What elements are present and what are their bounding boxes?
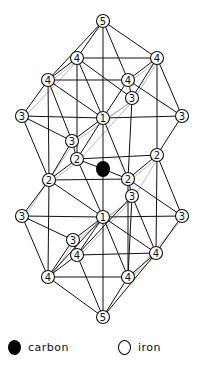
bond-line (103, 116, 182, 118)
iron-atom-node: 3 (126, 190, 139, 203)
iron-atom-node: 3 (67, 234, 80, 247)
bond-line (128, 98, 132, 179)
iron-atom-label: 4 (74, 250, 80, 261)
iron-atom-node: 4 (122, 271, 135, 284)
bond-line (48, 80, 72, 141)
iron-atom-label: 2 (154, 150, 160, 161)
bond-line (22, 216, 73, 240)
iron-atom-label: 3 (129, 191, 135, 202)
carbon-atom (96, 161, 110, 177)
iron-atom-label: 3 (69, 136, 75, 147)
iron-atom-node: 2 (71, 153, 84, 166)
iron-atom-label: 1 (100, 113, 106, 124)
iron-atom-label: 4 (125, 75, 131, 86)
iron-atom-label: 4 (154, 53, 160, 64)
iron-atom-label: 3 (19, 111, 25, 122)
iron-atom-label: 4 (45, 75, 51, 86)
faint-bond-line (134, 156, 159, 197)
bond-line (103, 253, 156, 317)
bond-line (22, 216, 103, 217)
bond-line (22, 116, 49, 180)
iron-atom-label: 4 (125, 272, 131, 283)
carbon-swatch-icon (8, 340, 21, 355)
iron-atom-node: 2 (122, 173, 135, 186)
iron-atom-label: 2 (46, 175, 52, 186)
iron-atom-node: 4 (71, 249, 84, 262)
iron-atom-label: 4 (74, 53, 80, 64)
iron-atom-node: 4 (151, 52, 164, 65)
iron-atom-node: 4 (71, 52, 84, 65)
iron-atom-node: 5 (97, 311, 110, 324)
iron-atom-node: 3 (16, 210, 29, 223)
iron-atom-node: 3 (66, 135, 79, 148)
iron-atom-label: 3 (19, 211, 25, 222)
legend-iron-label: iron (138, 341, 161, 354)
iron-atom-label: 1 (100, 212, 106, 223)
legend-iron: iron (118, 340, 161, 355)
bond-line (22, 116, 72, 141)
bond-line (77, 253, 156, 255)
legend-carbon: carbon (8, 340, 69, 355)
iron-atom-node: 3 (176, 110, 189, 123)
iron-atom-node: 3 (176, 210, 189, 223)
bond-line (22, 216, 48, 277)
iron-atom-node: 5 (97, 15, 110, 28)
iron-atom-node: 1 (97, 112, 110, 125)
bond-line (103, 216, 182, 217)
iron-atom-label: 3 (179, 211, 185, 222)
legend-carbon-label: carbon (28, 341, 69, 354)
iron-atom-node: 4 (42, 74, 55, 87)
iron-swatch-icon (118, 340, 131, 355)
bond-line (77, 155, 157, 159)
iron-atom-node: 3 (16, 110, 29, 123)
iron-atom-label: 3 (179, 111, 185, 122)
carbon-atom-dot (96, 161, 110, 177)
bond-line (156, 155, 157, 253)
iron-atom-label: 5 (100, 16, 106, 27)
bond-line (49, 179, 128, 180)
iron-atom-node: 1 (97, 211, 110, 224)
bond-line (103, 277, 128, 317)
iron-carbon-lattice-diagram: 544443331322223331344445 (0, 0, 198, 369)
iron-atom-node: 4 (42, 271, 55, 284)
iron-atom-label: 3 (129, 93, 135, 104)
bond-line (132, 58, 157, 98)
iron-atom-label: 5 (100, 312, 106, 323)
iron-atom-node: 3 (126, 92, 139, 105)
iron-atom-label: 2 (125, 174, 131, 185)
iron-atom-label: 4 (45, 272, 51, 283)
bond-line (48, 80, 49, 180)
iron-atom-node: 4 (150, 247, 163, 260)
bond-line (48, 217, 103, 277)
iron-atom-label: 4 (153, 248, 159, 259)
iron-atom-node: 2 (151, 149, 164, 162)
iron-atom-label: 3 (70, 235, 76, 246)
iron-atom-label: 2 (74, 154, 80, 165)
iron-atom-node: 2 (43, 174, 56, 187)
iron-atom-node: 4 (122, 74, 135, 87)
